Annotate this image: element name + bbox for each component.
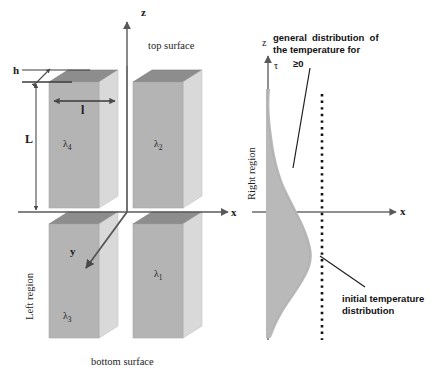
lambda-index-4: 4 [68, 143, 72, 152]
initial-distribution-annotation-line1: initial temperature [342, 294, 424, 305]
bottom-surface-label: bottom surface [91, 356, 154, 368]
figure-container: z x y h L l top surface bottom surface λ… [0, 0, 435, 380]
z-axis-label-right: z [262, 37, 266, 49]
initial-distribution-annotation-line2: distribution [342, 306, 394, 317]
general-distribution-annotation-line1: general distribution of [273, 33, 379, 44]
lambda-index-1: 1 [159, 273, 163, 282]
dimension-label-h: h [13, 64, 19, 77]
x-axis-label-right: x [400, 205, 406, 218]
lambda-index-2: 2 [159, 143, 163, 152]
block-lower-left [49, 212, 118, 338]
top-surface-label: top surface [148, 40, 194, 52]
temperature-distribution-area [266, 89, 312, 338]
left-region-label: Left region [24, 273, 36, 320]
tau-condition-label: ≥0 [293, 59, 304, 70]
lambda-index-3: 3 [68, 315, 72, 324]
dimension-label-L: L [25, 133, 33, 147]
general-distribution-annotation-line2: the temperature for [273, 45, 360, 56]
block-lower-right [133, 212, 202, 338]
block-label-lambda2: λ2 [154, 138, 163, 153]
leader-line-general [293, 68, 310, 168]
block-label-lambda4: λ4 [63, 138, 72, 153]
x-axis-label-left: x [231, 206, 237, 219]
right-region-label: Right region [246, 147, 258, 200]
dimension-label-l: l [81, 104, 84, 118]
block-upper-right [133, 70, 202, 208]
block-label-lambda3: λ3 [63, 310, 72, 325]
tau-symbol-label: τ [274, 60, 278, 72]
y-axis-label-left: y [70, 245, 76, 258]
block-label-lambda1: λ1 [154, 268, 163, 283]
leader-line-initial [320, 256, 365, 287]
block-upper-left [49, 70, 118, 208]
z-axis-label-left: z [141, 6, 146, 19]
